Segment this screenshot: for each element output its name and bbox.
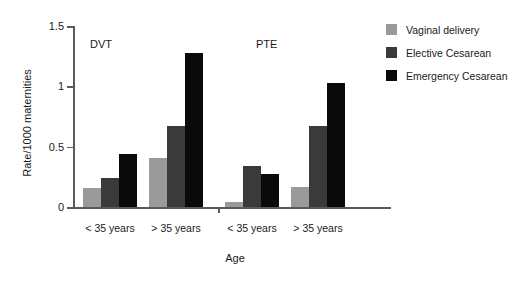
legend-swatch-icon: [386, 24, 397, 35]
x-axis-line: [73, 207, 391, 209]
bar: [185, 53, 203, 207]
bar: [119, 154, 137, 207]
bar: [327, 83, 345, 207]
legend: Vaginal deliveryElective CesareanEmergen…: [386, 18, 508, 87]
bar: [243, 166, 261, 207]
y-axis-title: Rate/1000 maternities: [21, 48, 33, 198]
legend-item: Elective Cesarean: [386, 41, 508, 64]
bar: [149, 158, 167, 207]
x-axis-title: Age: [0, 252, 470, 264]
bar: [167, 126, 185, 207]
bar: [225, 202, 243, 207]
x-group-label: < 35 years: [85, 222, 134, 234]
x-group-label: > 35 years: [151, 222, 200, 234]
bar: [291, 187, 309, 208]
x-group-label: > 35 years: [293, 222, 342, 234]
plot-area: [73, 26, 391, 207]
y-tick-label: 0: [58, 201, 64, 213]
legend-item: Vaginal delivery: [386, 18, 508, 41]
y-tick-label: 0.5: [49, 141, 64, 153]
legend-label: Vaginal delivery: [406, 24, 479, 36]
bar: [261, 174, 279, 207]
bar: [309, 126, 327, 207]
bar-chart-figure: 00.511.5 Rate/1000 maternities Age DVTPT…: [0, 0, 530, 282]
x-group-label: < 35 years: [227, 222, 276, 234]
x-axis-panel-separator-tick: [218, 207, 220, 213]
legend-label: Elective Cesarean: [406, 47, 491, 59]
legend-item: Emergency Cesarean: [386, 64, 508, 87]
legend-swatch-icon: [386, 70, 397, 81]
legend-swatch-icon: [386, 47, 397, 58]
y-tick-label: 1.5: [49, 20, 64, 32]
y-tick-label: 1: [58, 80, 64, 92]
bar: [83, 188, 101, 207]
legend-label: Emergency Cesarean: [406, 70, 508, 82]
bar: [101, 178, 119, 207]
